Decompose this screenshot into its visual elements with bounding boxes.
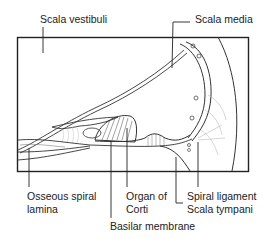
- label-osseous-spiral-lamina-1: Osseous spiral: [27, 190, 96, 202]
- label-organ-of-corti-2: Corti: [126, 203, 148, 215]
- label-osseous-spiral-lamina-2: lamina: [27, 203, 58, 215]
- label-scala-media: Scala media: [195, 13, 253, 25]
- label-basilar-membrane: Basilar membrane: [110, 220, 195, 232]
- label-spiral-ligament: Spiral ligament: [187, 190, 256, 202]
- label-organ-of-corti-1: Organ of: [126, 190, 167, 202]
- leader-scala-tympani: [176, 157, 183, 203]
- tectorial-membrane: [52, 117, 118, 129]
- diagram-frame: [18, 38, 249, 172]
- scala-tympani-wall: [160, 146, 190, 171]
- label-scala-tympani: Scala tympani: [187, 203, 253, 215]
- stria-vascularis: [180, 44, 205, 138]
- label-scala-vestibuli: Scala vestibuli: [40, 13, 107, 25]
- leader-scala-media: [172, 22, 190, 68]
- cochlear-wall: [218, 37, 237, 171]
